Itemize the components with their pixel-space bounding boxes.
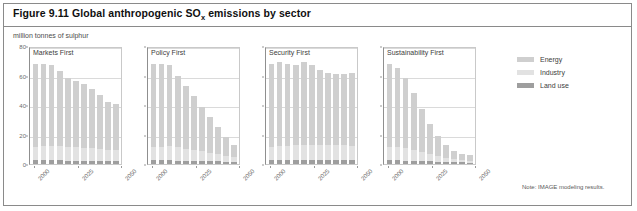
- bar-segment-land-use: [269, 160, 274, 164]
- bar: [467, 155, 472, 164]
- bar: [151, 64, 156, 164]
- bar-segment-land-use: [293, 160, 298, 164]
- bar: [341, 74, 346, 164]
- y-tick-mark: [144, 76, 146, 77]
- bar: [387, 64, 392, 164]
- bar: [349, 73, 354, 164]
- bar-segment-land-use: [341, 160, 346, 164]
- bar-segment-industry: [349, 146, 354, 160]
- plot-frame: [147, 47, 240, 165]
- bar: [443, 145, 448, 164]
- bar-segment-land-use: [49, 160, 54, 164]
- bar-segment-land-use: [167, 160, 172, 164]
- y-tick-mark: [144, 47, 146, 48]
- plot-frame: [29, 47, 122, 165]
- y-tick-mark: [380, 76, 382, 77]
- bar-segment-energy: [57, 71, 62, 146]
- bar-group: [30, 48, 121, 164]
- panel-title: Security First: [269, 49, 310, 56]
- bar: [403, 78, 408, 164]
- bar-segment-land-use: [451, 162, 456, 164]
- bar-segment-land-use: [73, 161, 78, 164]
- chart-panel-security-first: Security First200020252050: [248, 47, 358, 165]
- bar-segment-industry: [207, 153, 212, 161]
- bar-segment-energy: [427, 124, 432, 154]
- figure-title-prefix: Figure 9.11 Global anthropogenic SO: [13, 7, 201, 19]
- bar-segment-energy: [159, 64, 164, 147]
- y-axis: 020406080: [12, 47, 28, 165]
- bar-segment-industry: [105, 150, 110, 162]
- bar-segment-energy: [231, 145, 236, 157]
- bar: [277, 62, 282, 164]
- bar-segment-energy: [49, 65, 54, 146]
- bar-segment-energy: [395, 68, 400, 147]
- bar-segment-industry: [183, 149, 188, 161]
- bar-segment-energy: [175, 76, 180, 148]
- y-axis: [130, 47, 146, 165]
- y-tick-mark: [262, 165, 264, 166]
- x-tick-label: 2050: [478, 168, 492, 182]
- bar-segment-energy: [451, 151, 456, 160]
- y-tick-mark: [144, 165, 146, 166]
- y-tick-mark: [262, 47, 264, 48]
- bar-segment-land-use: [349, 160, 354, 164]
- panel-plot: Sustainability First: [366, 47, 476, 165]
- x-tick-label: 2025: [434, 168, 448, 182]
- bar-segment-land-use: [105, 161, 110, 164]
- bar-segment-land-use: [435, 162, 440, 164]
- y-tick-mark: [144, 135, 146, 136]
- y-tick-mark: [26, 165, 28, 166]
- bar-segment-industry: [191, 150, 196, 161]
- x-tick-label: 2000: [273, 168, 287, 182]
- bar-segment-land-use: [443, 162, 448, 164]
- bar: [427, 124, 432, 164]
- bar-segment-industry: [49, 146, 54, 160]
- x-tick-mark: [432, 166, 433, 168]
- legend-label: Industry: [540, 69, 565, 76]
- x-tick-mark: [388, 166, 389, 168]
- bar: [183, 86, 188, 164]
- y-tick-label: 80: [19, 44, 26, 50]
- bar-segment-land-use: [159, 160, 164, 164]
- x-tick-mark: [239, 166, 240, 168]
- x-tick-label: 2050: [360, 168, 374, 182]
- bar-segment-land-use: [215, 161, 220, 164]
- figure-title-suffix: emissions by sector: [205, 7, 311, 19]
- bar-segment-energy: [191, 96, 196, 150]
- bar-segment-industry: [403, 148, 408, 160]
- bar-segment-industry: [151, 147, 156, 160]
- bar-segment-industry: [33, 147, 38, 160]
- x-tick-label: 2000: [37, 168, 51, 182]
- bar-group: [266, 48, 357, 164]
- bar-segment-energy: [183, 86, 188, 149]
- x-tick-mark: [314, 166, 315, 168]
- panel-title: Sustainability First: [387, 49, 444, 56]
- bar-segment-land-use: [223, 162, 228, 165]
- bar-segment-industry: [159, 147, 164, 161]
- bar-segment-land-use: [175, 161, 180, 164]
- panel-plot: Policy First: [130, 47, 240, 165]
- y-tick-label: 60: [19, 74, 26, 80]
- bar-segment-energy: [89, 89, 94, 148]
- bar: [231, 145, 236, 164]
- bar-segment-land-use: [183, 161, 188, 164]
- bar-segment-energy: [97, 95, 102, 149]
- bar-segment-industry: [395, 147, 400, 160]
- bar-segment-land-use: [459, 162, 464, 164]
- bar: [199, 107, 204, 165]
- bar-segment-industry: [317, 145, 322, 160]
- bar-segment-energy: [33, 64, 38, 147]
- bar-segment-land-use: [427, 161, 432, 164]
- bar-segment-industry: [387, 147, 392, 160]
- y-tick-label: 40: [19, 103, 26, 109]
- legend-label: Energy: [540, 56, 562, 63]
- figure-title: Figure 9.11 Global anthropogenic SOx emi…: [13, 7, 311, 22]
- legend-label: Land use: [540, 82, 569, 89]
- legend-item-land-use: Land use: [517, 82, 617, 89]
- bar: [419, 109, 424, 164]
- bar-segment-energy: [199, 107, 204, 152]
- x-tick-label: 2025: [316, 168, 330, 182]
- y-tick-mark: [380, 135, 382, 136]
- bar-segment-land-use: [65, 161, 70, 164]
- bar-segment-land-use: [57, 160, 62, 164]
